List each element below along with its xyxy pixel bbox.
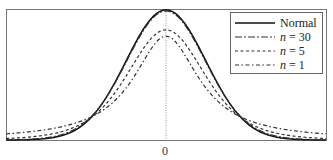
x-tick-zero: 0: [162, 144, 168, 159]
legend-label: Normal: [280, 16, 317, 31]
legend-item-n5: n = 5: [235, 44, 318, 58]
legend-item-normal: Normal: [235, 16, 318, 30]
dash-dot-short-line-icon: [235, 62, 275, 68]
legend-label: n = 5: [280, 44, 305, 59]
legend-item-n30: n = 30: [235, 30, 318, 44]
legend-label: n = 30: [280, 30, 311, 45]
solid-line-icon: [235, 20, 275, 26]
legend-item-n1: n = 1: [235, 58, 318, 72]
dashed-line-icon: [235, 48, 275, 54]
legend-label: n = 1: [280, 58, 305, 73]
dash-dot-line-icon: [235, 34, 275, 40]
legend: Normal n = 30 n = 5 n = 1: [230, 12, 323, 74]
